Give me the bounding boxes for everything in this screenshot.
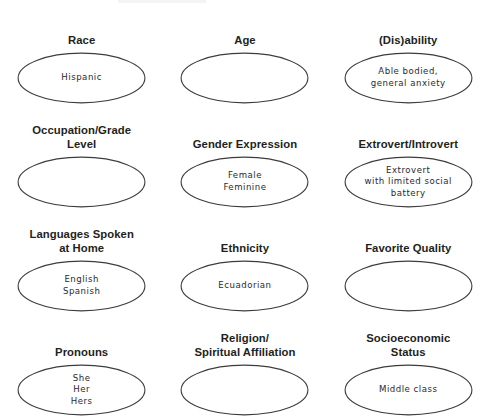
ellipse-bubble[interactable]: Middle class <box>344 364 473 416</box>
cell-label: Languages Spoken at Home <box>29 228 133 255</box>
bubble-value: Female Feminine <box>180 156 309 208</box>
bubble-value <box>17 156 146 208</box>
ellipse-bubble[interactable]: Extrovert with limited social battery <box>344 156 473 208</box>
bubble-value: Ecuadorian <box>180 260 309 312</box>
identity-cell-occupation-grade-level[interactable]: Occupation/Grade Level <box>0 104 163 208</box>
identity-cell-ethnicity[interactable]: Ethnicity Ecuadorian <box>163 208 326 312</box>
cell-label: Gender Expression <box>193 138 297 151</box>
ellipse-bubble[interactable]: Hispanic <box>17 52 146 104</box>
cell-label: Age <box>234 34 256 47</box>
bubble-value: Extrovert with limited social battery <box>344 156 473 208</box>
ellipse-bubble[interactable] <box>17 156 146 208</box>
identity-cell-languages-spoken-at-home[interactable]: Languages Spoken at Home English Spanish <box>0 208 163 312</box>
identity-cell-extrovert-introvert[interactable]: Extrovert/Introvert Extrovert with limit… <box>327 104 490 208</box>
cell-label: Ethnicity <box>221 242 269 255</box>
identity-cell-religion-spiritual-affiliation[interactable]: Religion/ Spiritual Affiliation <box>163 312 326 416</box>
cell-label: Occupation/Grade Level <box>32 124 131 151</box>
ellipse-bubble[interactable] <box>180 52 309 104</box>
identity-cell-disability[interactable]: (Dis)ability Able bodied, general anxiet… <box>327 0 490 104</box>
bubble-value: Able bodied, general anxiety <box>344 52 473 104</box>
identity-cell-pronouns[interactable]: Pronouns She Her Hers <box>0 312 163 416</box>
ellipse-bubble[interactable] <box>180 364 309 416</box>
cell-label: Socioeconomic Status <box>366 332 450 359</box>
identity-cell-age[interactable]: Age <box>163 0 326 104</box>
identity-cell-socioeconomic-status[interactable]: Socioeconomic Status Middle class <box>327 312 490 416</box>
bubble-value <box>180 52 309 104</box>
identity-cell-gender-expression[interactable]: Gender Expression Female Feminine <box>163 104 326 208</box>
ellipse-bubble[interactable]: Able bodied, general anxiety <box>344 52 473 104</box>
ellipse-bubble[interactable]: English Spanish <box>17 260 146 312</box>
identity-grid: Race Hispanic Age (Dis)ability <box>0 0 490 416</box>
ellipse-bubble[interactable]: She Her Hers <box>17 364 146 416</box>
cell-label: Extrovert/Introvert <box>358 138 458 151</box>
bubble-value <box>344 260 473 312</box>
identity-cell-race[interactable]: Race Hispanic <box>0 0 163 104</box>
bubble-value: She Her Hers <box>17 364 146 416</box>
bubble-value: Hispanic <box>17 52 146 104</box>
cell-label: (Dis)ability <box>379 34 437 47</box>
ellipse-bubble[interactable]: Female Feminine <box>180 156 309 208</box>
ellipse-bubble[interactable] <box>344 260 473 312</box>
cell-label: Race <box>68 34 95 47</box>
cell-label: Favorite Quality <box>365 242 451 255</box>
bubble-value <box>180 364 309 416</box>
ellipse-bubble[interactable]: Ecuadorian <box>180 260 309 312</box>
cell-label: Pronouns <box>55 346 108 359</box>
identity-cell-favorite-quality[interactable]: Favorite Quality <box>327 208 490 312</box>
cell-label: Religion/ Spiritual Affiliation <box>194 332 295 359</box>
bubble-value: Middle class <box>344 364 473 416</box>
bubble-value: English Spanish <box>17 260 146 312</box>
